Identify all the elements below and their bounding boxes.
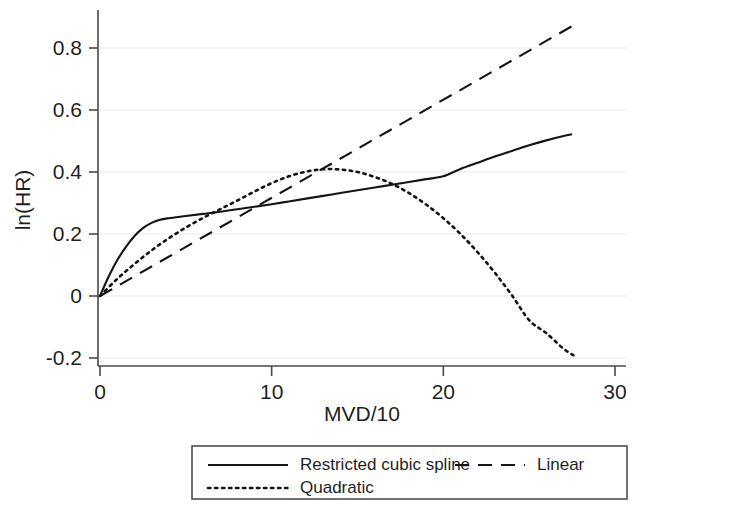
chart-legend: Restricted cubic splineLinearQuadratic: [192, 446, 627, 499]
plot-canvas: -0.200.20.40.60.8 0102030 ln(HR) MVD/10 …: [0, 0, 736, 520]
legend-label-2: Quadratic: [300, 478, 374, 497]
y-axis-title: ln(HR): [11, 170, 34, 231]
x-tick-label-3: 30: [603, 380, 626, 403]
x-axis-title: MVD/10: [324, 402, 400, 425]
y-tick-label-1: 0: [70, 284, 82, 307]
chart-figure: -0.200.20.40.60.8 0102030 ln(HR) MVD/10 …: [0, 0, 736, 520]
y-tick-label-2: 0.2: [53, 222, 82, 245]
figure-background: [0, 0, 736, 520]
x-tick-label-2: 20: [432, 380, 455, 403]
y-tick-label-3: 0.4: [53, 160, 83, 183]
legend-label-1: Linear: [537, 455, 585, 474]
x-tick-label-1: 10: [260, 380, 283, 403]
legend-label-0: Restricted cubic spline: [300, 455, 470, 474]
x-tick-label-0: 0: [94, 380, 106, 403]
y-tick-label-4: 0.6: [53, 98, 82, 121]
y-tick-label-0: -0.2: [46, 346, 82, 369]
y-tick-label-5: 0.8: [53, 36, 82, 59]
